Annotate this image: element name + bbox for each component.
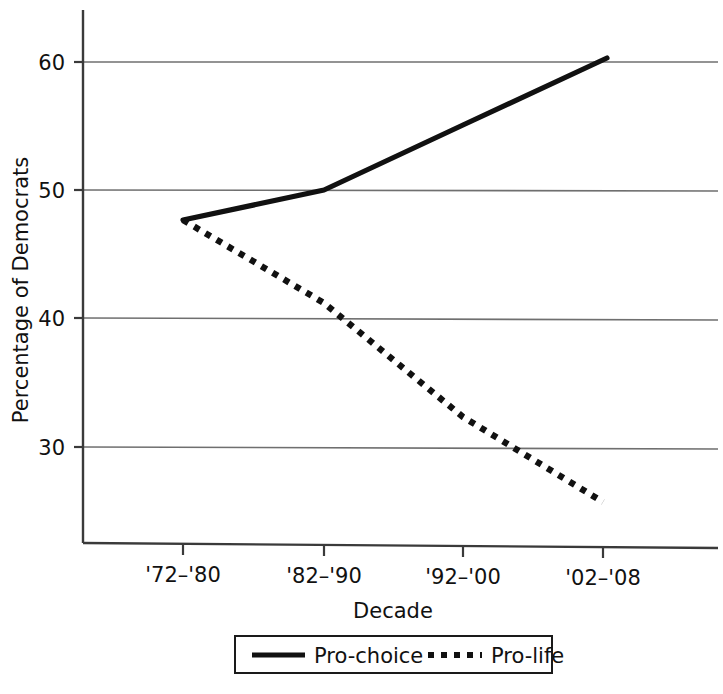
legend: Pro-choice Pro-life: [235, 636, 564, 673]
x-tick-label-3: '92–'00: [425, 565, 501, 589]
y-tick-label-40: 40: [38, 307, 65, 331]
x-tick-label-2: '82–'90: [286, 564, 362, 588]
y-tick-label-50: 50: [38, 179, 65, 203]
line-chart: 60 50 40 30 '72–'80 '82–'90 '92–'00 '02–…: [0, 0, 723, 694]
gridline-50: [83, 190, 718, 191]
x-axis-title: Decade: [353, 599, 433, 623]
y-axis-title: Percentage of Democrats: [9, 157, 33, 423]
x-tick-label-1: '72–'80: [145, 563, 221, 587]
chart-page: 60 50 40 30 '72–'80 '82–'90 '92–'00 '02–…: [0, 0, 723, 694]
legend-label-pro-choice: Pro-choice: [314, 644, 423, 668]
y-tick-label-60: 60: [38, 51, 65, 75]
legend-label-pro-life: Pro-life: [491, 644, 564, 668]
y-tick-label-30: 30: [38, 436, 65, 460]
x-tick-label-4: '02–'08: [565, 566, 641, 590]
